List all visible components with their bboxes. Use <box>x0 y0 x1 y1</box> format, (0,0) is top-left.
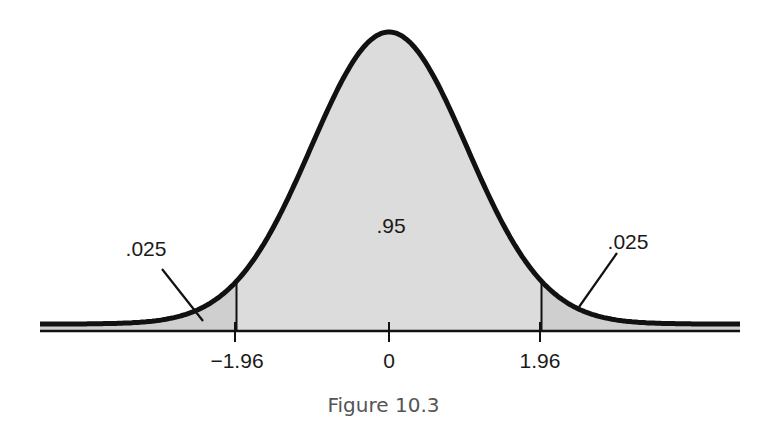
normal-distribution-chart: −1.96 0 1.96 .95 .025 .025 <box>0 0 767 439</box>
tick-label-left: −1.96 <box>210 349 263 372</box>
left-tail-label: .025 <box>126 237 167 260</box>
right-tail-leader <box>579 253 617 307</box>
center-area-label: .95 <box>376 214 405 237</box>
center-area <box>237 32 542 331</box>
tick-label-center: 0 <box>383 349 395 372</box>
tick-label-right: 1.96 <box>520 349 561 372</box>
right-tail-label: .025 <box>608 230 649 253</box>
figure-caption: Figure 10.3 <box>0 393 767 417</box>
